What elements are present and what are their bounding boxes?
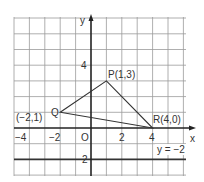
- y-axis-arrow-icon: [89, 14, 94, 21]
- y-axis-label: y: [80, 15, 85, 26]
- x-axis-arrow-icon: [189, 126, 196, 131]
- x-axis-label: x: [190, 133, 195, 144]
- point-q-coord-label: (−2,1): [16, 112, 42, 123]
- point-r-label: R(4,0): [153, 114, 181, 125]
- x-tick-2: 2: [119, 132, 125, 143]
- origin-label: O: [81, 132, 89, 143]
- y-tick-4: 4: [81, 60, 87, 71]
- y-tick-minus-2: 2: [82, 154, 88, 165]
- line-y-minus-2-label: y = −2: [157, 144, 185, 155]
- coordinate-diagram: y x O −4 −2 2 4 4 2 P(1,3) Q (−2,1) R(4,…: [0, 0, 204, 182]
- x-tick-minus-2: −2: [49, 132, 61, 143]
- x-tick-minus-4: −4: [15, 132, 27, 143]
- point-p-label: P(1,3): [108, 69, 135, 80]
- x-tick-4: 4: [149, 132, 155, 143]
- point-q-label: Q: [51, 107, 59, 118]
